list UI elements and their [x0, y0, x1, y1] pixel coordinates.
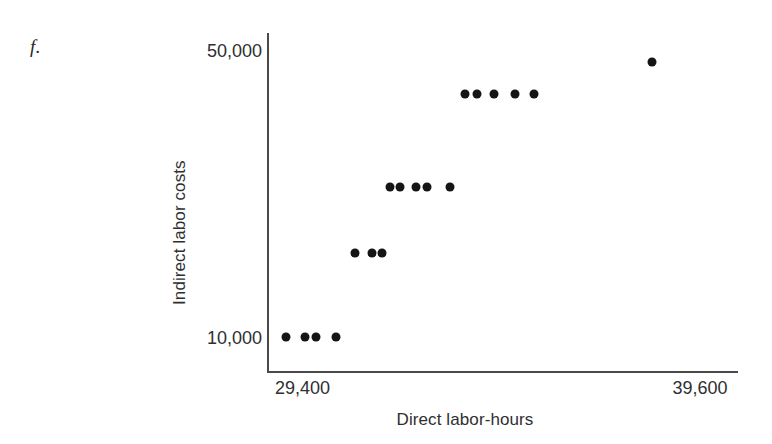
y-axis-title: Indirect labor costs	[170, 65, 190, 305]
data-point	[647, 57, 656, 66]
data-point	[331, 333, 340, 342]
data-point	[395, 182, 404, 191]
data-point	[530, 89, 539, 98]
data-point	[489, 89, 498, 98]
data-point	[460, 89, 469, 98]
data-point	[368, 249, 377, 258]
data-point	[281, 333, 290, 342]
data-point	[412, 182, 421, 191]
data-point	[473, 89, 482, 98]
data-point	[511, 89, 520, 98]
data-point	[385, 182, 394, 191]
x-axis-tick-label-right: 39,600	[660, 378, 740, 399]
data-point	[350, 249, 359, 258]
data-point	[377, 249, 386, 258]
data-point	[300, 333, 309, 342]
plot-area	[267, 33, 738, 372]
data-point	[445, 182, 454, 191]
data-point	[311, 333, 320, 342]
part-label: f.	[30, 36, 41, 58]
x-axis-tick-label-left: 29,400	[275, 378, 330, 399]
x-axis-title: Direct labor-hours	[350, 410, 580, 430]
y-axis-tick-label-bottom: 10,000	[196, 328, 262, 349]
y-axis-tick-label-top: 50,000	[196, 41, 262, 62]
scatter-plot-figure: f. 50,000 10,000 29,400 39,600 Indirect …	[0, 0, 772, 444]
data-point	[423, 182, 432, 191]
